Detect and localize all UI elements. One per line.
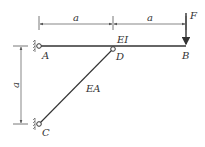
support-a-icon <box>33 40 35 52</box>
pin-c-icon <box>37 122 42 127</box>
point-d-label: D <box>115 51 124 62</box>
beam-stiffness-label: EI <box>116 34 129 45</box>
rod-stiffness-label: EA <box>85 83 101 94</box>
point-b-label: B <box>181 50 189 61</box>
point-a-label: A <box>41 50 49 61</box>
pin-a-icon <box>37 44 42 49</box>
structure-diagram: a a a F EI EA A B C D <box>0 0 205 147</box>
top-dimension <box>39 16 186 30</box>
point-c-label: C <box>42 127 50 138</box>
dim-label-top-right: a <box>147 12 153 23</box>
dim-label-top-left: a <box>73 12 79 23</box>
force-label: F <box>189 10 198 21</box>
support-c-icon <box>33 118 35 130</box>
dim-label-vertical: a <box>10 82 21 88</box>
rod-cd <box>39 49 113 124</box>
pin-d-icon <box>111 47 116 52</box>
